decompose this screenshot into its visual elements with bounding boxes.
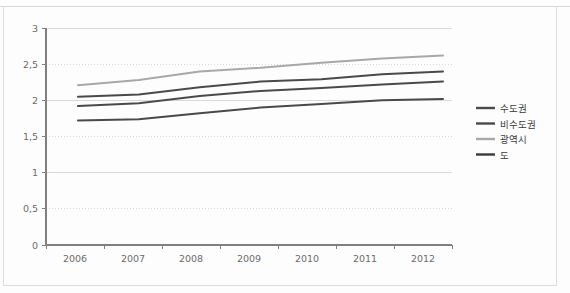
y-tick-label: 1,5 (23, 131, 38, 142)
x-tick-label: 2012 (411, 253, 435, 264)
series-line-도 (78, 99, 443, 121)
x-tick-label: 2007 (121, 253, 145, 264)
x-tick-label: 2011 (353, 253, 377, 264)
data-series (78, 55, 443, 120)
legend-label: 비수도권 (500, 119, 536, 130)
x-axis (46, 245, 452, 249)
chart-legend: 수도권비수도권광역시도 (476, 103, 536, 161)
y-tick-label: 1 (32, 167, 38, 178)
x-tick-label: 2006 (63, 253, 87, 264)
x-tick-label: 2008 (179, 253, 203, 264)
legend-label: 광역시 (500, 134, 527, 145)
line-chart: 00,511,522,53 20062007200820092010201120… (0, 0, 570, 293)
screenshot-root: 00,511,522,53 20062007200820092010201120… (0, 0, 570, 293)
y-tick-label: 0 (32, 240, 38, 251)
y-tick-label: 3 (32, 23, 38, 34)
y-tick-label: 0,5 (23, 203, 38, 214)
y-axis (42, 28, 46, 245)
y-tick-label: 2,5 (23, 59, 38, 70)
chart-svg: 00,511,522,53 20062007200820092010201120… (0, 0, 570, 293)
gridlines (46, 28, 452, 245)
x-tick-label: 2009 (237, 253, 261, 264)
x-tick-label: 2010 (295, 253, 319, 264)
legend-label: 수도권 (500, 103, 527, 114)
y-tick-labels: 00,511,522,53 (23, 23, 38, 251)
x-tick-labels: 2006200720082009201020112012 (63, 253, 435, 264)
y-tick-label: 2 (32, 95, 38, 106)
legend-label: 도 (500, 150, 509, 161)
